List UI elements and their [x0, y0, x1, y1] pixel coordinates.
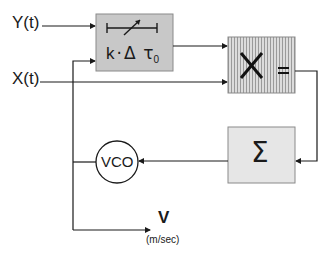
delay-delta: Δ	[124, 43, 136, 63]
vco-label: VCO	[101, 154, 134, 169]
delay-k: k	[106, 44, 115, 63]
delay-tau: τ	[143, 43, 153, 63]
multiplier-to-summer-line	[295, 71, 317, 161]
delay-dot: ·	[117, 43, 122, 63]
feedback-to-delay-line	[73, 61, 95, 230]
output-label: V	[158, 209, 169, 226]
delay-formula: k·Δ τ0	[106, 45, 159, 65]
summer-symbol: Σ	[251, 139, 269, 167]
multiplier-block	[228, 37, 295, 93]
x-input-label: X(t)	[12, 70, 39, 87]
delay-subscript: 0	[154, 54, 160, 65]
output-unit-label: (m/sec)	[146, 235, 179, 245]
y-input-label: Y(t)	[12, 14, 39, 31]
